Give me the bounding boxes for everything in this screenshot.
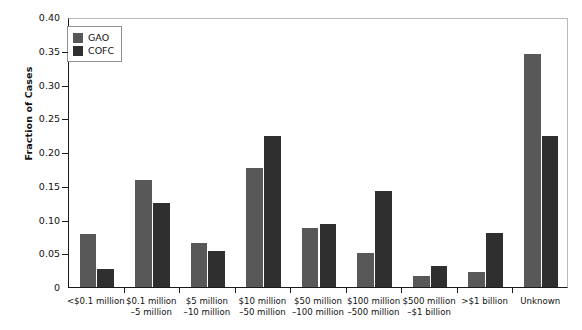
bar-cofc: [375, 191, 392, 287]
x-label-line-2: –$1 billion: [395, 307, 463, 318]
bar-group: [513, 19, 569, 287]
bar-cofc: [542, 136, 559, 287]
bar-group: [291, 19, 347, 287]
legend-label-gao: GAO: [88, 33, 109, 43]
legend-item-gao: GAO: [73, 31, 114, 44]
y-axis-tick-label: 0.40: [26, 13, 60, 23]
bar-cofc: [153, 203, 170, 287]
y-axis-tick-label: 0.35: [26, 47, 60, 57]
x-label-line-1: $5 million: [186, 296, 228, 306]
x-axis-tick-mark: [235, 288, 236, 293]
grouped-bar-chart: Fraction of Cases 00.050.100.150.200.250…: [0, 0, 582, 330]
bar-cofc: [431, 266, 448, 287]
plot-area: [68, 18, 568, 288]
x-label-line-1: $500 million: [402, 296, 455, 306]
y-axis-tick-mark: [62, 86, 68, 87]
y-axis-tick-label: 0.30: [26, 81, 60, 91]
legend-swatch-gao: [73, 33, 83, 43]
y-axis-tick-mark: [62, 52, 68, 53]
bar-group: [458, 19, 514, 287]
bar-gao: [357, 253, 374, 287]
bar-group: [402, 19, 458, 287]
bar-cofc: [97, 269, 114, 287]
x-label-line-1: $0.1 million: [126, 296, 177, 306]
bar-cofc: [320, 224, 337, 287]
bar-group: [180, 19, 236, 287]
bar-gao: [302, 228, 319, 287]
bar-cofc: [208, 251, 225, 287]
bar-cofc: [486, 233, 503, 287]
y-axis-tick-mark: [62, 119, 68, 120]
y-axis-tick-labels: 00.050.100.150.200.250.300.350.40: [26, 0, 60, 330]
y-axis-tick-label: 0.20: [26, 148, 60, 158]
bar-gao: [524, 54, 541, 287]
x-axis-tick-mark: [457, 288, 458, 293]
y-axis-tick-label: 0.15: [26, 182, 60, 192]
x-label-line-1: $10 million: [239, 296, 287, 306]
x-label-line-1: $100 million: [347, 296, 400, 306]
bar-group: [347, 19, 403, 287]
y-axis-tick-mark: [62, 187, 68, 188]
x-label-line-1: $50 million: [294, 296, 342, 306]
legend-swatch-cofc: [73, 46, 83, 56]
bar-cofc: [264, 136, 281, 287]
x-axis-tick-mark: [346, 288, 347, 293]
x-axis-tick-mark: [179, 288, 180, 293]
bar-series-container: [69, 19, 567, 287]
y-axis-tick-mark: [62, 221, 68, 222]
x-axis-tick-mark: [290, 288, 291, 293]
bar-gao: [246, 168, 263, 287]
y-axis-tick-label: 0.05: [26, 249, 60, 259]
x-label-line-1: >$1 billion: [461, 296, 508, 306]
x-label-line-1: Unknown: [520, 296, 560, 306]
bar-gao: [135, 180, 152, 287]
y-axis-tick-label: 0: [26, 283, 60, 293]
y-axis-tick-label: 0.25: [26, 114, 60, 124]
bar-gao: [80, 234, 97, 287]
y-axis-tick-mark: [62, 254, 68, 255]
bar-group: [125, 19, 181, 287]
y-axis-tick-label: 0.10: [26, 216, 60, 226]
bar-gao: [191, 243, 208, 287]
x-axis-tick-mark: [124, 288, 125, 293]
x-axis-tick-mark: [512, 288, 513, 293]
legend-label-cofc: COFC: [88, 46, 114, 56]
chart-legend: GAO COFC: [67, 26, 122, 62]
bar-group: [236, 19, 292, 287]
x-label-line-1: <$0.1 million: [67, 296, 125, 306]
bar-gao: [413, 276, 430, 287]
x-axis-tick-label: Unknown: [506, 296, 574, 307]
bar-gao: [468, 272, 485, 287]
x-axis-tick-mark: [401, 288, 402, 293]
y-axis-tick-mark: [62, 153, 68, 154]
legend-item-cofc: COFC: [73, 44, 114, 57]
